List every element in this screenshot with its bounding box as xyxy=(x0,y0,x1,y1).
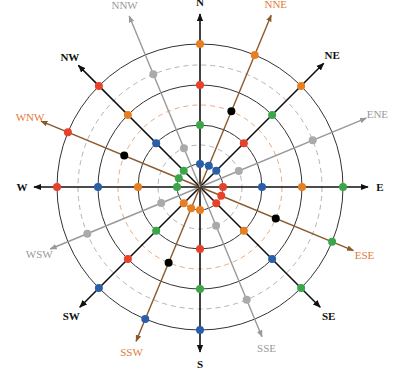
label-ne: NE xyxy=(325,49,340,61)
point-ese-red xyxy=(217,192,225,200)
label-sw: SW xyxy=(63,310,80,322)
point-w-blue xyxy=(94,183,102,191)
point-w-orange xyxy=(134,183,142,191)
point-wnw-black xyxy=(120,152,128,160)
point-sse-gray xyxy=(212,222,220,230)
point-nnw-gray xyxy=(180,144,188,152)
point-ne-blue xyxy=(212,167,220,175)
label-wnw: WNW xyxy=(16,111,45,123)
label-nw: NW xyxy=(60,51,79,63)
point-n-green xyxy=(196,121,204,129)
point-sse-gray xyxy=(243,296,251,304)
point-nw-blue xyxy=(152,139,160,147)
label-ene: ENE xyxy=(367,108,388,120)
point-n-blue xyxy=(196,160,204,168)
label-nne: NNE xyxy=(264,0,287,10)
point-nw-red xyxy=(95,82,103,90)
point-ese-black xyxy=(272,214,280,222)
point-sw-blue xyxy=(95,284,103,292)
point-nw-green xyxy=(180,167,188,175)
point-ne-red xyxy=(240,139,248,147)
point-se-orange xyxy=(240,227,248,235)
point-s-blue xyxy=(196,326,204,334)
point-n-red xyxy=(196,81,204,89)
label-w: W xyxy=(17,181,28,193)
point-s-red xyxy=(196,245,204,253)
point-sw-orange xyxy=(180,199,188,207)
point-wsw-gray xyxy=(157,199,165,207)
label-se: SE xyxy=(322,310,335,322)
point-sw-red xyxy=(124,255,132,263)
point-se-blue xyxy=(268,255,276,263)
point-nne-black xyxy=(227,107,235,115)
point-ssw-blue xyxy=(141,315,149,323)
point-nw-orange xyxy=(124,111,132,119)
label-wsw: WSW xyxy=(26,248,53,260)
point-w-green xyxy=(173,183,181,191)
point-e-green xyxy=(339,183,347,191)
point-ne-orange xyxy=(297,82,305,90)
label-e: E xyxy=(376,181,383,193)
point-nne-orange xyxy=(251,51,259,59)
point-ene-gray xyxy=(309,136,317,144)
point-e-red xyxy=(219,183,227,191)
direction-axes xyxy=(34,14,368,352)
point-se-green xyxy=(297,284,305,292)
label-ese: ESE xyxy=(355,249,375,261)
label-nnw: NNW xyxy=(111,0,137,11)
point-wsw-gray xyxy=(83,230,91,238)
point-nne-blue xyxy=(205,162,213,170)
point-se-red xyxy=(212,199,220,207)
label-ssw: SSW xyxy=(120,346,143,358)
point-e-blue xyxy=(258,183,266,191)
point-n-orange xyxy=(196,40,204,48)
point-ssw-black xyxy=(165,259,173,267)
point-ene-gray xyxy=(235,167,243,175)
point-ssw-orange xyxy=(187,204,195,212)
point-s-green xyxy=(196,285,204,293)
point-nnw-gray xyxy=(149,70,157,78)
label-s: S xyxy=(197,358,203,370)
label-n: N xyxy=(196,0,204,8)
point-ese-green xyxy=(328,238,336,246)
point-wnw-green xyxy=(175,174,183,182)
point-ne-green xyxy=(268,111,276,119)
point-sw-green xyxy=(152,227,160,235)
label-sse: SSE xyxy=(257,342,276,354)
point-wnw-red xyxy=(64,128,72,136)
point-s-orange xyxy=(196,206,204,214)
point-w-red xyxy=(53,183,61,191)
point-e-orange xyxy=(298,183,306,191)
